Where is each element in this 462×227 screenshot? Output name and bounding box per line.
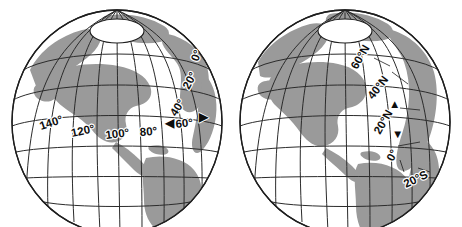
arrow-down-icon: ▼ [392, 128, 403, 140]
right-globe: 60°N 40°N ▲ 20°N ▼ 0° 20°S [240, 10, 450, 227]
left-globe: 140° 120° 100° 80° ◀ 60° ▶ 40° 20° 0° [12, 10, 222, 227]
arrow-right-icon: ▶ [198, 111, 209, 123]
left-label-60: 60° [175, 116, 194, 130]
right-globe-polar-cap [318, 19, 372, 43]
arrow-up-icon: ▲ [389, 98, 400, 110]
left-label-80: 80° [139, 125, 158, 138]
arrow-left-icon: ◀ [164, 117, 175, 129]
globes-figure: 140° 120° 100° 80° ◀ 60° ▶ 40° 20° 0° [0, 0, 462, 227]
globes-illustration: 140° 120° 100° 80° ◀ 60° ▶ 40° 20° 0° [0, 0, 462, 227]
left-globe-polar-cap [90, 19, 144, 43]
